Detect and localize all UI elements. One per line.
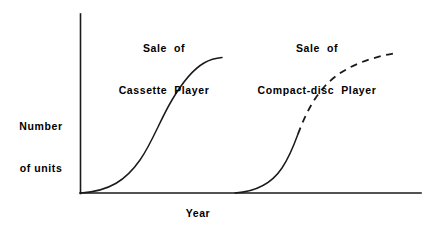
series-label-cassette: Sale of Cassette Player — [108, 13, 220, 125]
product-lifecycle-chart: Sale of Cassette Player Sale of Compact-… — [0, 0, 430, 229]
series-label-cassette-line2: Cassette Player — [108, 83, 220, 97]
y-axis-label-line1: Number — [8, 119, 74, 133]
x-axis-label: Year — [158, 206, 238, 220]
y-axis-label-line2: of units — [8, 161, 74, 175]
series-label-compact-disc-line2: Compact-disc Player — [247, 83, 387, 97]
series-label-compact-disc-line1: Sale of — [247, 41, 387, 55]
series-compact-disc-curve-solid — [235, 134, 298, 193]
series-label-compact-disc: Sale of Compact-disc Player — [247, 13, 387, 125]
series-label-cassette-line1: Sale of — [108, 41, 220, 55]
y-axis-label: Number of units — [8, 91, 74, 203]
